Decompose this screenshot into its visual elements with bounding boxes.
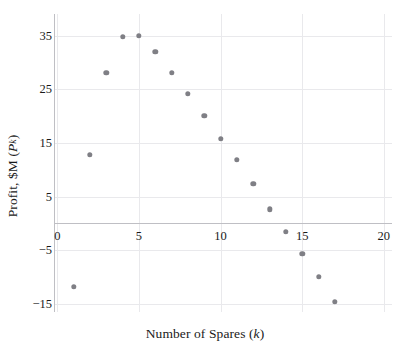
y-tick-label: −5 [0,243,52,258]
data-point [218,136,223,141]
data-point [104,70,109,75]
data-point [299,251,304,256]
gridline-vertical [302,14,303,312]
data-point [250,181,255,186]
y-tick-label: 5 [0,189,52,204]
x-axis-title-tail: ) [260,326,265,341]
data-point [120,34,125,39]
data-point [185,91,190,96]
data-point [152,49,157,54]
gridline-horizontal [54,197,392,198]
data-point [169,70,174,75]
x-axis-title-text: Number of Spares ( [146,326,254,341]
y-tick-label: 25 [0,82,52,97]
data-point [71,284,76,289]
scatter-plot-figure: Profit, $M (Pk) −15−55152535 05101520 Nu… [0,0,410,352]
data-point [136,33,141,38]
gridline-vertical [139,14,140,312]
gridline-vertical [384,14,385,312]
data-point [267,207,272,212]
y-tick-label: 35 [0,28,52,43]
gridline-horizontal [54,304,392,305]
x-tick-label: 15 [282,229,322,244]
gridline-horizontal [54,89,392,90]
x-tick-label: 10 [201,229,241,244]
data-point [316,274,321,279]
gridline-horizontal [54,36,392,37]
data-point [234,157,239,162]
data-point [201,113,206,118]
gridline-horizontal [54,143,392,144]
y-tick-label: 15 [0,135,52,150]
gridline-vertical [221,14,222,312]
x-axis-title: Number of Spares (k) [0,326,410,342]
y-axis-line [54,14,55,312]
plot-area: −15−55152535 05101520 [54,14,392,312]
gridline-vertical [57,14,58,312]
y-tick-label: −15 [0,296,52,311]
y-axis-title-text: Profit, $M ( [5,152,21,217]
x-axis-line [54,223,392,224]
x-tick-label: 0 [37,229,77,244]
x-tick-label: 5 [119,229,159,244]
x-tick-label: 20 [364,229,404,244]
data-point [87,152,92,157]
gridline-horizontal [54,250,392,251]
